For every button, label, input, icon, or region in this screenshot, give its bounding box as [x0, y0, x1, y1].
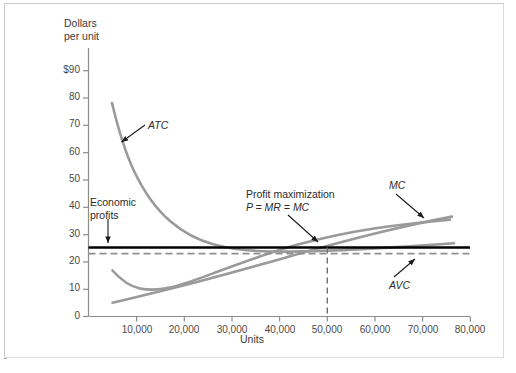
profit-max-line2: P = MR = MC — [246, 201, 309, 213]
mc-leader-arrow — [396, 194, 424, 218]
y-tick-label-50: 50 — [38, 173, 80, 184]
y-tick-label-80: 80 — [38, 91, 80, 102]
figure-container: Dollarsper unit Units $90 80 70 60 50 40… — [0, 0, 516, 373]
profit-max-leader-arrow — [288, 215, 318, 242]
avc-leader-arrow — [394, 259, 415, 277]
y-tick-label-10: 10 — [38, 282, 80, 293]
y-tick-label-0: 0 — [38, 310, 80, 321]
economic-profits-annotation: Economicprofits — [90, 196, 136, 222]
y-tick-label-30: 30 — [38, 228, 80, 239]
avc-curve-label: AVC — [389, 279, 410, 291]
economic-profits-line2: profits — [90, 209, 119, 221]
y-axis-title: Dollarsper unit — [64, 17, 99, 43]
y-tick-label-60: 60 — [38, 146, 80, 157]
profit-maximization-annotation: Profit maximizationP = MR = MC — [246, 188, 335, 214]
y-tick-label-90: $90 — [38, 64, 80, 75]
profit-max-line1: Profit maximization — [246, 188, 335, 200]
atc-curve-label: ATC — [148, 119, 168, 131]
y-tick-label-70: 70 — [38, 118, 80, 129]
y-axis-ticks — [83, 71, 89, 317]
y-tick-label-40: 40 — [38, 200, 80, 211]
x-axis-ticks — [137, 317, 471, 322]
economic-profits-line1: Economic — [90, 196, 136, 208]
y-tick-label-20: 20 — [38, 255, 80, 266]
x-tick-label-80000: 80,000 — [439, 324, 501, 335]
y-axis-title-line1: Dollars — [64, 17, 97, 29]
mc-curve-label: MC — [389, 179, 405, 191]
atc-leader-arrow — [122, 125, 146, 142]
y-axis-title-line2: per unit — [64, 30, 99, 42]
